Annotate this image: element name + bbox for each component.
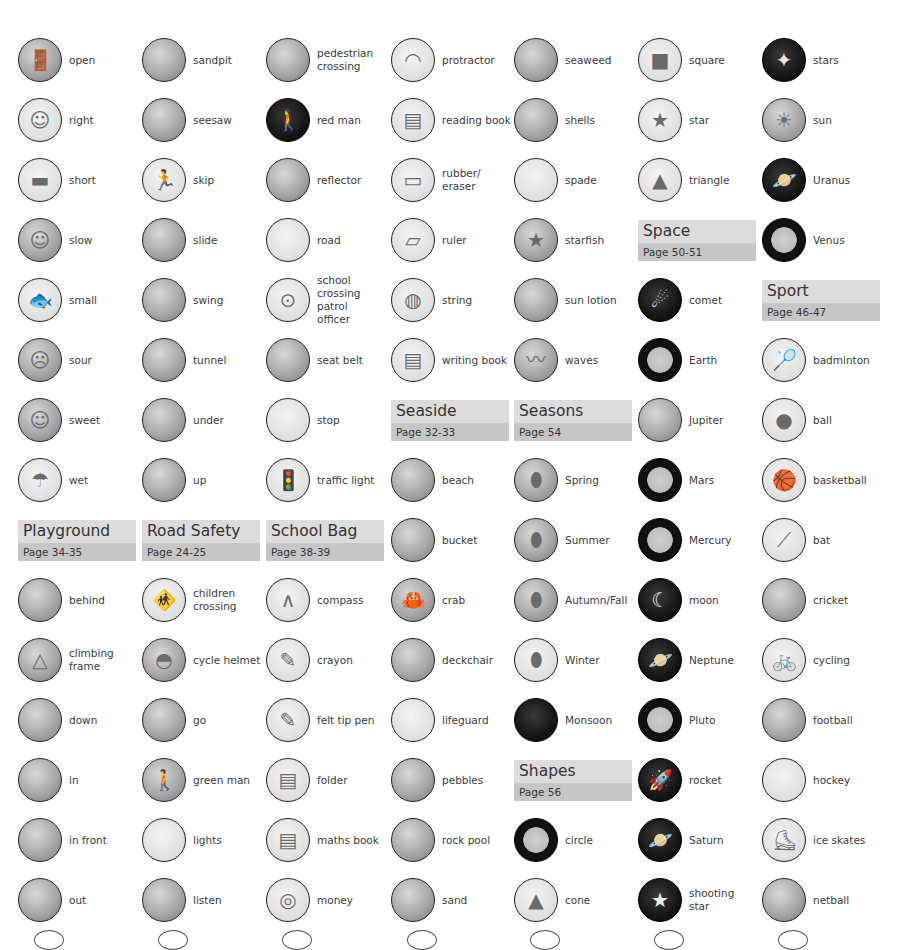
word-entry: under — [140, 390, 264, 450]
shells-picture-icon — [514, 98, 558, 142]
word-label: wet — [69, 474, 88, 487]
word-entry: stop — [264, 390, 388, 450]
word-entry: ▤reading book — [389, 90, 513, 150]
picture-glyph — [143, 39, 185, 81]
picture-glyph: 🚀 — [639, 759, 681, 801]
word-label: short — [69, 174, 96, 187]
picture-glyph — [19, 819, 61, 861]
picture-glyph: 🪐 — [763, 159, 805, 201]
picture-glyph: ☂ — [19, 459, 61, 501]
word-label: rock pool — [442, 834, 490, 847]
mercury-planet-picture-icon — [638, 518, 682, 562]
picture-glyph: ● — [763, 399, 805, 441]
picture-glyph: 🪐 — [639, 819, 681, 861]
word-entry: 🚀rocket — [636, 750, 760, 810]
word-label: Jupiter — [689, 414, 723, 427]
word-label: comet — [689, 294, 722, 307]
word-entry: go — [140, 690, 264, 750]
waves-picture-icon: 〰 — [514, 338, 558, 382]
picture-glyph — [515, 39, 557, 81]
word-label: Mercury — [689, 534, 732, 547]
word-entry: seat belt — [264, 330, 388, 390]
word-label: crab — [442, 594, 465, 607]
picture-glyph — [392, 879, 434, 921]
word-label: rubber/ eraser — [442, 167, 481, 193]
section-page-reference: Page 32-33 — [391, 423, 509, 441]
word-entry: football — [760, 690, 884, 750]
word-label: road — [317, 234, 341, 247]
word-entry: 🚶red man — [264, 90, 388, 150]
picture-glyph: ◠ — [392, 39, 434, 81]
rock-pool-picture-icon — [391, 818, 435, 862]
picture-glyph: ▱ — [392, 219, 434, 261]
picture-glyph — [143, 219, 185, 261]
picture-glyph — [19, 699, 61, 741]
word-label: Monsoon — [565, 714, 612, 727]
crab-picture-icon: 🦀 — [391, 578, 435, 622]
section-header: SpacePage 50-51 — [638, 220, 756, 261]
picture-glyph — [392, 759, 434, 801]
section-header: Road SafetyPage 24-25 — [142, 520, 260, 561]
picture-glyph — [639, 699, 681, 741]
money-coins-picture-icon: ◎ — [266, 878, 310, 922]
word-entry: Mercury — [636, 510, 760, 570]
word-entry: ☺slow — [16, 210, 140, 270]
word-entry: ▤writing book — [389, 330, 513, 390]
word-label: reflector — [317, 174, 361, 187]
word-label: moon — [689, 594, 719, 607]
word-label: stars — [813, 54, 839, 67]
word-entry: reflector — [264, 150, 388, 210]
word-entry: Earth — [636, 330, 760, 390]
word-entry: 🏀basketball — [760, 450, 884, 510]
picture-glyph: ✎ — [267, 639, 309, 681]
word-entry: sandpit — [140, 30, 264, 90]
slide-picture-icon — [142, 218, 186, 262]
word-entry: ☾moon — [636, 570, 760, 630]
skip-picture-icon: 🏃 — [142, 158, 186, 202]
shooting-star-picture-icon: ★ — [638, 878, 682, 922]
section-header: SportPage 46-47 — [762, 280, 880, 321]
up-picture-icon — [142, 458, 186, 502]
in-front-picture-icon — [18, 818, 62, 862]
word-entry: in — [16, 750, 140, 810]
word-label: circle — [565, 834, 593, 847]
stop-picture-icon — [266, 398, 310, 442]
word-entry: hockey — [760, 750, 884, 810]
picture-glyph — [639, 399, 681, 441]
picture-glyph — [267, 339, 309, 381]
word-label: swing — [193, 294, 223, 307]
word-entry: 🚸children crossing — [140, 570, 264, 630]
sandpit-picture-icon — [142, 38, 186, 82]
picture-glyph — [267, 159, 309, 201]
word-label: Spring — [565, 474, 599, 487]
road-picture-icon — [266, 218, 310, 262]
word-entry: Pluto — [636, 690, 760, 750]
word-label: beach — [442, 474, 474, 487]
picture-glyph: ★ — [639, 879, 681, 921]
picture-glyph: 🦀 — [392, 579, 434, 621]
word-entry: ★star — [636, 90, 760, 150]
pluto-planet-picture-icon — [638, 698, 682, 742]
word-entry: sand — [389, 870, 513, 930]
picture-glyph: ◎ — [267, 879, 309, 921]
under-picture-icon — [142, 398, 186, 442]
word-entry: in front — [16, 810, 140, 870]
open-door-picture-icon: 🚪 — [18, 38, 62, 82]
rubber-eraser-picture-icon: ▭ — [391, 158, 435, 202]
word-label: string — [442, 294, 472, 307]
section-title: Seaside — [391, 400, 509, 423]
sand-picture-icon — [391, 878, 435, 922]
picture-glyph — [763, 699, 805, 741]
word-entry: 🚪open — [16, 30, 140, 90]
word-label: folder — [317, 774, 347, 787]
picture-glyph: ▤ — [392, 99, 434, 141]
word-label: bat — [813, 534, 830, 547]
picture-glyph — [639, 459, 681, 501]
word-entry: ●ball — [760, 390, 884, 450]
picture-glyph: ■ — [639, 39, 681, 81]
picture-glyph — [19, 879, 61, 921]
netball-picture-icon — [762, 878, 806, 922]
word-entry: ◍string — [389, 270, 513, 330]
ruler-picture-icon: ▱ — [391, 218, 435, 262]
